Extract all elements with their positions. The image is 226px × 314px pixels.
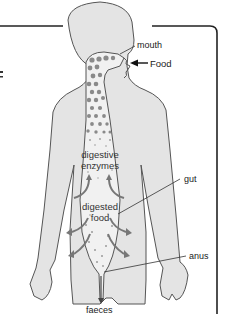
label-digestive-enzymes-line1: digestive — [70, 150, 130, 161]
food-arrow — [130, 60, 148, 67]
label-digestive-enzymes: digestive enzymes — [70, 150, 130, 171]
digestive-system-diagram: mouth Food digestive enzymes digested fo… — [0, 0, 226, 314]
label-digestive-enzymes-line2: enzymes — [70, 161, 130, 172]
label-digested-food-line1: digested — [70, 202, 130, 213]
label-faeces: faeces — [86, 305, 113, 314]
label-digested-food-line2: food — [70, 213, 130, 224]
label-gut: gut — [184, 174, 197, 184]
label-anus: anus — [189, 251, 209, 261]
label-mouth: mouth — [137, 40, 162, 50]
label-digested-food: digested food — [70, 202, 130, 223]
label-food: Food — [150, 59, 172, 69]
